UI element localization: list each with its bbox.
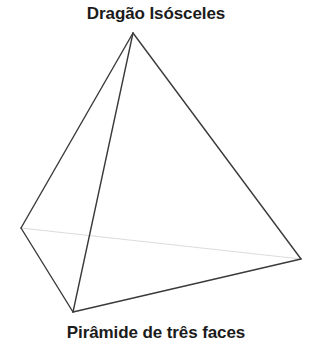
edge-apex-left bbox=[21, 33, 133, 228]
diagram-canvas: Dragão Isósceles Pirâmide de três faces bbox=[0, 0, 312, 346]
hidden-edges-group bbox=[21, 228, 301, 259]
edge-left-right bbox=[21, 228, 301, 259]
tetrahedron-figure bbox=[0, 0, 312, 346]
edge-apex-right bbox=[133, 33, 301, 259]
bottom-label: Pirâmide de três faces bbox=[0, 323, 312, 343]
visible-edges-group bbox=[21, 33, 301, 312]
edge-apex-bottom bbox=[73, 33, 133, 312]
edge-bottom-right bbox=[73, 259, 301, 312]
edge-left-bottom bbox=[21, 228, 73, 312]
